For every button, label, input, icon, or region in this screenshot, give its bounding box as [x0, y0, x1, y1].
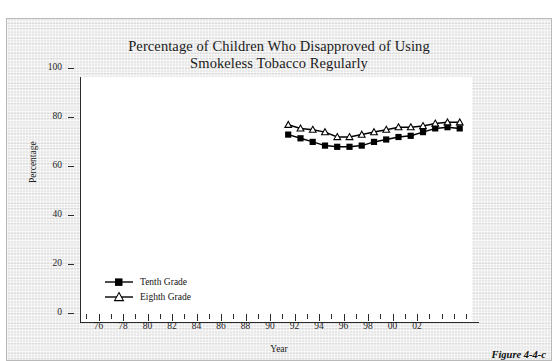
data-point-filled-square — [334, 144, 340, 150]
data-point-filled-square — [359, 143, 365, 149]
data-point-filled-square — [408, 133, 414, 139]
data-point-filled-square — [395, 134, 401, 140]
data-point-filled-square — [322, 143, 328, 149]
data-point-filled-square — [297, 135, 303, 141]
legend-item-tenth-grade: Tenth Grade — [104, 274, 191, 289]
chart-legend: Tenth Grade Eighth Grade — [104, 274, 191, 304]
series-plot — [6, 18, 552, 361]
data-point-filled-square — [457, 125, 463, 131]
data-point-filled-square — [285, 132, 291, 138]
open-triangle-marker-icon — [104, 291, 134, 303]
data-point-filled-square — [371, 139, 377, 145]
legend-label-tenth-grade: Tenth Grade — [140, 277, 187, 287]
data-point-filled-square — [346, 144, 352, 150]
figure-caption: Figure 4-4-c — [491, 349, 546, 360]
legend-label-eighth-grade: Eighth Grade — [140, 292, 191, 302]
data-point-open-triangle — [285, 121, 292, 127]
data-point-filled-square — [420, 129, 426, 135]
figure-container: Percentage of Children Who Disapproved o… — [0, 9, 558, 361]
data-point-filled-square — [310, 139, 316, 145]
legend-item-eighth-grade: Eighth Grade — [104, 289, 191, 304]
data-point-filled-square — [383, 136, 389, 142]
filled-square-marker-icon — [104, 276, 134, 288]
